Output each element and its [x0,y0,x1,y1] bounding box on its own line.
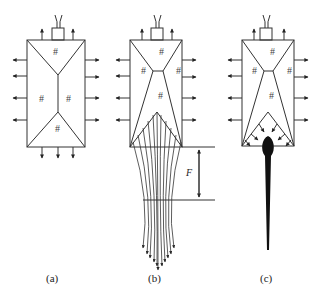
jet-slug [262,136,274,250]
svg-text:#: # [158,90,163,101]
panel-label-a: (a) [46,272,58,284]
svg-text:#: # [66,93,71,104]
dimension-label-f: F [186,167,192,178]
svg-text:#: # [269,90,274,101]
panel-b-drawing [116,15,215,270]
panel-label-b: (b) [148,272,161,284]
svg-text:#: # [53,46,58,57]
svg-text:#: # [159,46,164,57]
panel-a-drawing [13,15,99,158]
panel-label-c: (c) [260,272,272,284]
svg-text:#: # [252,65,257,76]
svg-text:#: # [141,65,146,76]
svg-text:#: # [176,65,181,76]
svg-text:#: # [39,93,44,104]
diagram-canvas: #### #### #### [0,0,318,304]
svg-text:#: # [287,65,292,76]
svg-text:#: # [55,123,60,134]
panel-c-drawing [228,15,308,146]
svg-text:#: # [270,46,275,57]
